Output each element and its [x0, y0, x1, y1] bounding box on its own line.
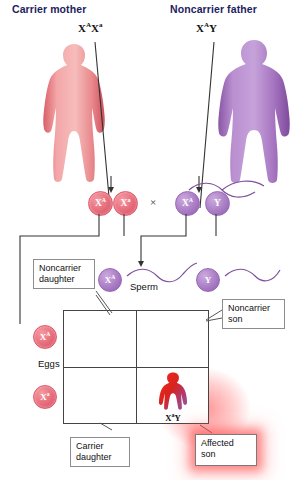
- paternal-gamete-XA: XA: [175, 191, 200, 216]
- paternal-gamete-Y: Y: [205, 191, 230, 216]
- maternal-gamete-Xa: Xa: [113, 191, 138, 216]
- cross-symbol: ×: [150, 196, 156, 208]
- father-title: Noncarrier father: [170, 3, 257, 15]
- callout-carrier-daughter: Carrier daughter: [70, 437, 130, 467]
- mother-title: Carrier mother: [12, 3, 86, 15]
- callout-noncarrier-daughter: Noncarrier daughter: [33, 259, 95, 289]
- callout-affected-son: Affected son: [195, 434, 257, 466]
- diagram-canvas: Carrier mother Noncarrier father XAXa XA…: [0, 0, 305, 480]
- maternal-gamete-XA: XA: [88, 191, 113, 216]
- callout-noncarrier-son: Noncarrier son: [222, 299, 285, 329]
